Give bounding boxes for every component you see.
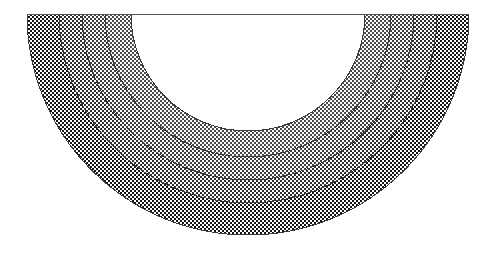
semicircle-zone-diagram (0, 0, 496, 256)
zone-bands (27, 14, 469, 235)
figure-canvas (0, 0, 496, 256)
